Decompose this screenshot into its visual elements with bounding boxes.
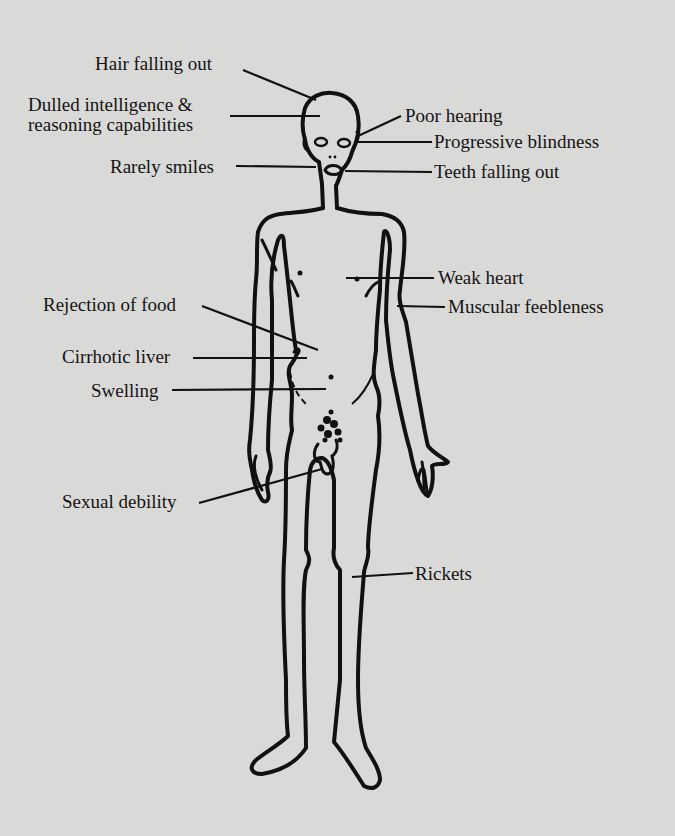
label-weak-heart: Weak heart	[438, 267, 524, 288]
pubic-hair	[318, 410, 343, 443]
leader-swelling	[172, 389, 326, 390]
label-progressive-blindness: Progressive blindness	[434, 131, 599, 152]
mouth	[325, 166, 342, 175]
label-dulled-intelligence-line1: Dulled intelligence &	[28, 94, 193, 115]
label-dulled-intelligence-line2: reasoning capabilities	[28, 114, 193, 135]
label-cirrhotic-liver: Cirrhotic liver	[62, 346, 170, 367]
leader-hair	[243, 70, 316, 100]
label-teeth-falling-out: Teeth falling out	[434, 161, 559, 182]
label-swelling: Swelling	[91, 380, 159, 401]
label-sexual-debility: Sexual debility	[62, 491, 177, 512]
label-hair-falling-out: Hair falling out	[95, 53, 212, 74]
label-rejection-of-food: Rejection of food	[43, 294, 176, 315]
body-outline	[249, 184, 448, 788]
label-rarely-smiles: Rarely smiles	[110, 156, 214, 177]
leader-hearing	[358, 116, 401, 136]
label-poor-hearing: Poor hearing	[405, 105, 503, 126]
left-eye	[315, 138, 327, 146]
leader-food	[202, 306, 318, 350]
leader-teeth	[345, 171, 432, 172]
leader-rickets	[352, 573, 413, 577]
leader-smiles	[236, 166, 316, 167]
right-eye	[338, 139, 350, 147]
leader-muscle	[397, 306, 445, 307]
label-muscular-feebleness: Muscular feebleness	[448, 296, 604, 317]
label-rickets: Rickets	[415, 563, 472, 584]
